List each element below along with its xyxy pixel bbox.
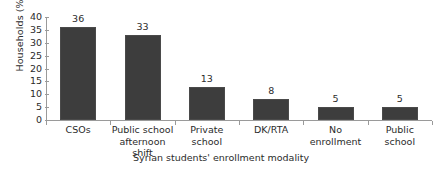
y-axis-tick-label: 20 <box>2 64 42 74</box>
x-axis-category-label-line: Public <box>368 124 432 136</box>
x-axis-category-label-line: No <box>303 124 367 136</box>
x-axis-category-label: Privateschool <box>175 124 239 147</box>
y-axis-tick-label: 30 <box>2 38 42 48</box>
bar <box>253 99 289 120</box>
y-axis-tick-label: 25 <box>2 51 42 61</box>
x-axis-category-label-line: school <box>368 136 432 148</box>
x-axis-category-labels: CSOsPublic schoolafternoon shiftPrivates… <box>46 124 432 152</box>
x-axis-category-label-line: Public school <box>110 124 174 136</box>
x-axis-category-label: Noenrollment <box>303 124 367 147</box>
y-axis-tick <box>45 56 49 57</box>
bar-value-label: 5 <box>316 94 356 104</box>
y-axis-tick <box>45 30 49 31</box>
x-axis-category-label-line: Private <box>175 124 239 136</box>
bar-value-label: 5 <box>380 94 420 104</box>
bar <box>318 107 354 120</box>
x-axis-category-label-line: DK/RTA <box>239 124 303 136</box>
y-axis-tick-labels: 0510152025303540 <box>0 17 42 120</box>
x-axis-category-label-line: school <box>175 136 239 148</box>
y-axis-tick-label: 35 <box>2 25 42 35</box>
y-axis-tick <box>45 69 49 70</box>
y-axis-tick-label: 15 <box>2 76 42 86</box>
y-axis-tick <box>45 107 49 108</box>
bar-value-label: 33 <box>123 22 163 32</box>
x-axis-category-label: Publicschool <box>368 124 432 147</box>
x-axis-title: Syrian students' enrollment modality <box>0 152 442 163</box>
x-axis-category-label: DK/RTA <box>239 124 303 136</box>
bar-value-label: 8 <box>251 86 291 96</box>
bar <box>189 87 225 120</box>
y-axis-tick <box>45 17 49 18</box>
y-axis-tick-label: 5 <box>2 102 42 112</box>
bar-value-label: 36 <box>58 14 98 24</box>
y-axis-tick <box>45 43 49 44</box>
y-axis-tick-label: 40 <box>2 12 42 22</box>
bar-value-label: 13 <box>187 74 227 84</box>
y-axis-tick <box>45 81 49 82</box>
bar <box>60 27 96 120</box>
bar <box>382 107 418 120</box>
x-axis-tick <box>432 121 433 125</box>
x-axis-category-label-line: enrollment <box>303 136 367 148</box>
bar-chart: Households (%) 0510152025303540 36331385… <box>0 0 442 170</box>
plot-area: 363313855 <box>46 17 432 120</box>
bar <box>125 35 161 120</box>
y-axis-tick-label: 10 <box>2 89 42 99</box>
x-axis-category-label-line: CSOs <box>46 124 110 136</box>
x-axis-category-label: CSOs <box>46 124 110 136</box>
y-axis-tick-label: 0 <box>2 115 42 125</box>
y-axis-tick <box>45 94 49 95</box>
